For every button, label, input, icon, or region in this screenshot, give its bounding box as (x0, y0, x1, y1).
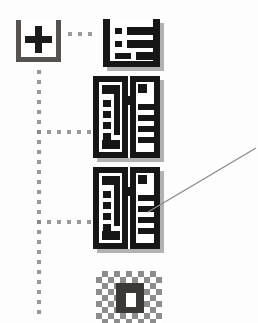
list-row-bullet (115, 53, 131, 59)
left-pane-border-right (122, 167, 128, 249)
record-pair-icon-face (93, 167, 160, 249)
expand-node-border-bottom (16, 57, 61, 62)
dithered-disabled-icon[interactable] (96, 271, 162, 323)
right-pane-line (138, 206, 154, 212)
left-pane-item-square (103, 100, 111, 107)
right-pane-line (138, 126, 154, 132)
plus-icon-vertical-stroke (35, 26, 42, 53)
list-row-bar (127, 27, 153, 35)
right-pane-border-right (154, 76, 160, 158)
right-pane-line (138, 104, 154, 110)
list-form-icon[interactable] (103, 19, 160, 67)
list-row-bullet (115, 41, 122, 47)
expand-node-border-right (56, 20, 61, 62)
left-pane-footer-bar (102, 140, 120, 149)
record-pair-icon-face (93, 76, 160, 158)
left-pane-border-left (93, 76, 99, 158)
left-pane-spine (114, 85, 120, 135)
right-pane-line (138, 195, 154, 201)
right-pane-tab-notch (122, 187, 132, 196)
expand-node-plus-button[interactable] (16, 20, 61, 62)
right-pane-border-left (130, 167, 136, 249)
list-row-bar (136, 52, 153, 60)
right-pane-line (138, 217, 154, 223)
record-right-pane (130, 76, 160, 158)
list-icon-frame-left (103, 19, 110, 67)
record-pair-icon-1[interactable] (93, 76, 160, 158)
record-right-pane (130, 167, 160, 249)
right-pane-corner-mark (138, 84, 147, 93)
left-pane-item-square (103, 224, 111, 231)
left-pane-spine (114, 176, 120, 226)
left-pane-item-square (103, 122, 111, 129)
record-pair-icon-2[interactable] (93, 167, 160, 249)
list-form-icon-face (103, 19, 160, 67)
right-pane-line (138, 228, 154, 234)
right-pane-corner-mark (138, 175, 147, 184)
record-left-pane (93, 76, 128, 158)
screenshot-canvas (0, 0, 258, 323)
left-pane-item-square (103, 111, 111, 118)
left-pane-item-square (103, 191, 111, 198)
left-pane-item-square (103, 213, 111, 220)
list-row-bullet (115, 28, 122, 34)
list-icon-frame-right (153, 19, 160, 67)
left-pane-footer-bar (102, 231, 120, 240)
right-pane-line (138, 137, 154, 143)
record-left-pane (93, 167, 128, 249)
list-row-bar (127, 40, 153, 48)
right-pane-border-right (154, 167, 160, 249)
list-icon-frame-bottom (103, 61, 160, 67)
right-pane-tab-notch (122, 96, 132, 105)
left-pane-border-right (122, 76, 128, 158)
right-pane-line (138, 115, 154, 121)
left-pane-item-square (103, 202, 111, 209)
left-pane-border-left (93, 167, 99, 249)
right-pane-border-left (130, 76, 136, 158)
left-pane-item-square (103, 133, 111, 140)
dither-icon-glyph-cutout (126, 293, 136, 307)
